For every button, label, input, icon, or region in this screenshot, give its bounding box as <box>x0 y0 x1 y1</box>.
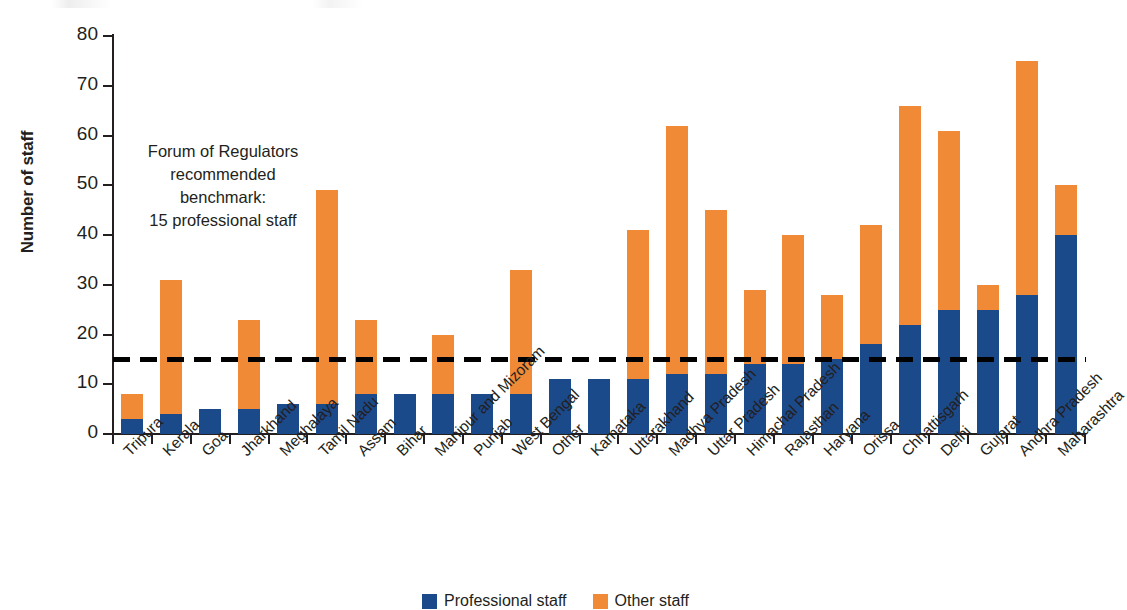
y-tick-mark <box>103 383 113 385</box>
bar-group[interactable] <box>121 36 143 434</box>
bar-group[interactable] <box>549 36 571 434</box>
bar-group[interactable] <box>588 36 610 434</box>
bar-segment-other-staff[interactable] <box>705 210 727 374</box>
benchmark-annotation-line-2: recommended <box>112 163 334 186</box>
y-tick-mark <box>103 234 113 236</box>
bar-segment-professional-staff[interactable] <box>899 325 921 434</box>
bar-group[interactable] <box>1055 36 1077 434</box>
y-tick-label: 10 <box>28 371 98 393</box>
legend-label-professional-staff: Professional staff <box>444 592 566 610</box>
legend-swatch-professional-staff <box>422 594 437 609</box>
bar-segment-other-staff[interactable] <box>121 394 143 419</box>
cropped-title-remnant <box>52 0 472 8</box>
bar-group[interactable] <box>277 36 299 434</box>
bar-segment-other-staff[interactable] <box>432 335 454 395</box>
y-tick-label: 70 <box>28 73 98 95</box>
y-tick-mark <box>103 284 113 286</box>
bar-group[interactable] <box>199 36 221 434</box>
bar-segment-other-staff[interactable] <box>744 290 766 365</box>
bar-group[interactable] <box>1016 36 1038 434</box>
y-tick-label: 0 <box>28 421 98 443</box>
plot-area <box>113 36 1085 434</box>
chart-legend: Professional staffOther staff <box>0 592 1111 610</box>
bar-segment-other-staff[interactable] <box>899 106 921 325</box>
x-tick-mark <box>112 435 114 444</box>
bar-group[interactable] <box>394 36 416 434</box>
benchmark-annotation: Forum of Regulatorsrecommendedbenchmark:… <box>112 140 334 232</box>
bar-group[interactable] <box>666 36 688 434</box>
benchmark-annotation-line-1: Forum of Regulators <box>112 140 334 163</box>
benchmark-threshold-line <box>113 357 1086 362</box>
y-tick-label: 30 <box>28 272 98 294</box>
bar-segment-other-staff[interactable] <box>238 320 260 410</box>
legend-item-professional-staff[interactable]: Professional staff <box>422 592 566 610</box>
bar-group[interactable] <box>238 36 260 434</box>
bar-group[interactable] <box>316 36 338 434</box>
bar-group[interactable] <box>355 36 377 434</box>
bar-group[interactable] <box>899 36 921 434</box>
bar-group[interactable] <box>977 36 999 434</box>
bar-group[interactable] <box>432 36 454 434</box>
bar-segment-other-staff[interactable] <box>1055 185 1077 235</box>
bar-group[interactable] <box>160 36 182 434</box>
bar-segment-other-staff[interactable] <box>860 225 882 344</box>
y-tick-label: 40 <box>28 222 98 244</box>
bar-segment-other-staff[interactable] <box>977 285 999 310</box>
bar-segment-other-staff[interactable] <box>666 126 688 375</box>
bar-group[interactable] <box>627 36 649 434</box>
benchmark-annotation-line-4: 15 professional staff <box>112 209 334 232</box>
legend-label-other-staff: Other staff <box>615 592 689 610</box>
y-tick-mark <box>103 135 113 137</box>
bar-group[interactable] <box>705 36 727 434</box>
y-tick-label: 50 <box>28 172 98 194</box>
bar-group[interactable] <box>471 36 493 434</box>
bar-group[interactable] <box>860 36 882 434</box>
y-tick-mark <box>103 35 113 37</box>
legend-swatch-other-staff <box>593 594 608 609</box>
y-tick-label: 60 <box>28 123 98 145</box>
bar-segment-professional-staff[interactable] <box>1016 295 1038 434</box>
benchmark-annotation-line-3: benchmark: <box>112 186 334 209</box>
y-tick-mark <box>103 334 113 336</box>
legend-item-other-staff[interactable]: Other staff <box>593 592 689 610</box>
bar-segment-other-staff[interactable] <box>821 295 843 360</box>
bar-group[interactable] <box>938 36 960 434</box>
bar-group[interactable] <box>782 36 804 434</box>
y-tick-label: 20 <box>28 322 98 344</box>
bar-segment-other-staff[interactable] <box>160 280 182 414</box>
bar-segment-other-staff[interactable] <box>782 235 804 364</box>
y-tick-mark <box>103 85 113 87</box>
bar-segment-professional-staff[interactable] <box>977 310 999 434</box>
bar-segment-other-staff[interactable] <box>938 131 960 310</box>
bar-segment-other-staff[interactable] <box>1016 61 1038 295</box>
y-tick-label: 80 <box>28 23 98 45</box>
